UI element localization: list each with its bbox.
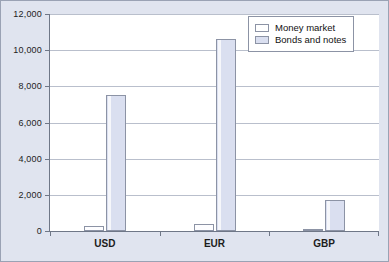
y-axis-tick — [45, 14, 50, 15]
legend-item-money-market: Money market — [255, 22, 346, 33]
bar-gbp-money-market — [303, 229, 323, 231]
y-axis-tick — [45, 123, 50, 124]
x-axis-category-label: GBP — [313, 238, 335, 249]
y-axis-tick-label: 12,000 — [13, 9, 42, 19]
y-axis-tick-label: 10,000 — [13, 45, 42, 55]
chart-legend: Money market Bonds and notes — [248, 16, 354, 52]
y-axis-tick — [45, 86, 50, 87]
gridline — [50, 14, 379, 15]
legend-label-bonds-and-notes: Bonds and notes — [275, 34, 346, 45]
bar-eur-bonds-and-notes — [216, 39, 236, 231]
legend-label-money-market: Money market — [275, 22, 335, 33]
bar-eur-money-market — [194, 224, 214, 231]
y-axis-tick — [45, 159, 50, 160]
gridline — [50, 159, 379, 160]
legend-item-bonds-and-notes: Bonds and notes — [255, 34, 346, 45]
y-axis-tick-label: 8,000 — [18, 81, 42, 91]
bar-usd-bonds-and-notes — [106, 95, 126, 231]
gridline — [50, 86, 379, 87]
x-axis-tick — [160, 231, 161, 236]
bar-usd-money-market — [84, 226, 104, 231]
legend-swatch-bonds-and-notes — [255, 36, 269, 44]
legend-swatch-money-market — [255, 24, 269, 32]
y-axis-tick — [45, 195, 50, 196]
gridline — [50, 195, 379, 196]
gridline — [50, 123, 379, 124]
bar-chart-figure: 02,0004,0006,0008,00010,00012,000 USDEUR… — [0, 0, 389, 262]
x-axis-tick — [378, 231, 379, 236]
x-axis-category-label: USD — [94, 238, 115, 249]
y-axis-tick-label: 6,000 — [18, 118, 42, 128]
x-axis-category-label: EUR — [204, 238, 225, 249]
y-axis-tick — [45, 50, 50, 51]
y-axis-tick-label: 2,000 — [18, 190, 42, 200]
y-axis-tick-label: 0 — [37, 226, 42, 236]
bar-gbp-bonds-and-notes — [325, 200, 345, 231]
x-axis-tick — [50, 231, 51, 236]
x-axis-tick — [269, 231, 270, 236]
y-axis-tick-label: 4,000 — [18, 154, 42, 164]
